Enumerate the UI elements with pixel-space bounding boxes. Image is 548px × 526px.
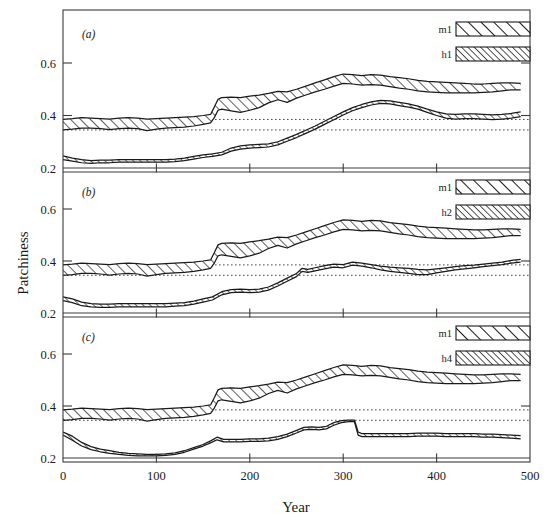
y-tick-label: 0.2	[40, 307, 56, 321]
y-tick-label: 0.4	[40, 400, 56, 414]
legend-label-h4-panel-3: h4	[442, 353, 453, 364]
legend-label-m1-panel-3: m1	[439, 328, 452, 339]
legend-label-m1-panel-2: m1	[439, 182, 452, 193]
legend-swatch-m1-panel-1	[456, 22, 530, 36]
legend-label-m1-panel-1: m1	[439, 24, 452, 35]
x-tick-label: 200	[240, 469, 259, 483]
legend-swatch-m1-panel-3	[456, 326, 530, 340]
panel-label-2: (b)	[82, 186, 96, 199]
y-axis-title: Patchiness	[15, 231, 31, 294]
panel-label-1: (a)	[82, 28, 96, 41]
x-tick-label: 100	[147, 469, 166, 483]
x-axis-title: Year	[282, 499, 310, 515]
legend-swatch-m1-panel-2	[456, 180, 530, 194]
y-tick-label: 0.6	[40, 348, 56, 362]
x-tick-label: 500	[521, 469, 540, 483]
y-tick-label: 0.6	[40, 57, 56, 71]
x-tick-label: 0	[60, 469, 66, 483]
x-tick-label: 400	[427, 469, 446, 483]
legend-label-h1-panel-1: h1	[442, 49, 453, 60]
y-tick-label: 0.6	[40, 203, 56, 217]
y-tick-label: 0.4	[40, 109, 56, 123]
patchiness-multi-panel-chart: 0.20.40.60.20.40.60.20.40.60100200300400…	[0, 0, 548, 526]
panel-label-3: (c)	[82, 331, 95, 344]
legend-swatch-h1-panel-1	[456, 47, 530, 61]
y-tick-label: 0.2	[40, 162, 56, 176]
x-tick-label: 300	[334, 469, 353, 483]
y-tick-label: 0.2	[40, 452, 56, 466]
legend-swatch-h2-panel-2	[456, 205, 530, 219]
figure-container: 0.20.40.60.20.40.60.20.40.60100200300400…	[0, 0, 548, 526]
legend-swatch-h4-panel-3	[456, 351, 530, 365]
legend-label-h2-panel-2: h2	[442, 207, 453, 218]
y-tick-label: 0.4	[40, 255, 56, 269]
